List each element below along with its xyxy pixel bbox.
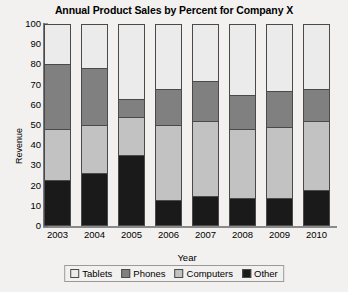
- chart-title: Annual Product Sales by Percent for Comp…: [0, 4, 348, 16]
- y-tick: 40: [30, 140, 44, 150]
- bar-segment-computers[interactable]: [192, 121, 219, 196]
- y-tick: 30: [30, 161, 44, 171]
- y-tick-label: 0: [36, 221, 44, 231]
- bar-segment-computers[interactable]: [229, 129, 256, 198]
- y-tick: 20: [30, 181, 44, 191]
- y-axis-label: Revenue: [14, 128, 24, 164]
- y-tick-label: 60: [30, 100, 44, 110]
- bar-column[interactable]: [303, 24, 330, 226]
- x-tick-label: 2008: [232, 229, 253, 240]
- y-tick-label: 50: [30, 120, 44, 130]
- legend-label: Other: [254, 268, 278, 279]
- x-axis-label: Year: [44, 252, 330, 263]
- legend-item[interactable]: Other: [242, 268, 278, 279]
- x-tick-label: 2004: [84, 229, 105, 240]
- bar-segment-tablets[interactable]: [229, 24, 256, 95]
- bar-segment-computers[interactable]: [118, 117, 145, 155]
- bar-column[interactable]: [155, 24, 182, 226]
- y-tick-label: 70: [30, 80, 44, 90]
- legend-item[interactable]: Phones: [121, 268, 165, 279]
- legend-swatch: [242, 269, 251, 278]
- y-tick-label: 80: [30, 60, 44, 70]
- bar-segment-phones[interactable]: [192, 81, 219, 121]
- y-tick-label: 90: [30, 39, 44, 49]
- x-tick-label: 2003: [47, 229, 68, 240]
- bar-segment-tablets[interactable]: [81, 24, 108, 68]
- bar-segment-other[interactable]: [81, 173, 108, 226]
- bar-segment-computers[interactable]: [155, 125, 182, 200]
- bar-segment-phones[interactable]: [81, 68, 108, 125]
- bar-segment-tablets[interactable]: [44, 24, 71, 64]
- bar-segment-tablets[interactable]: [303, 24, 330, 89]
- legend-item[interactable]: Computers: [175, 268, 233, 279]
- bar-segment-other[interactable]: [192, 196, 219, 226]
- chart-legend: TabletsPhonesComputersOther: [64, 265, 284, 282]
- plot-area: 0102030405060708090100: [44, 24, 330, 226]
- bar-segment-phones[interactable]: [118, 99, 145, 117]
- x-tick-label: 2010: [306, 229, 327, 240]
- bar-segment-other[interactable]: [229, 198, 256, 226]
- y-tick: 80: [30, 60, 44, 70]
- bar-segment-other[interactable]: [303, 190, 330, 226]
- y-tick: 10: [30, 201, 44, 211]
- legend-swatch: [121, 269, 130, 278]
- bar-segment-tablets[interactable]: [192, 24, 219, 81]
- bar-segment-tablets[interactable]: [155, 24, 182, 89]
- y-tick: 60: [30, 100, 44, 110]
- bar-segment-other[interactable]: [44, 180, 71, 226]
- bar-segment-tablets[interactable]: [266, 24, 293, 91]
- legend-label: Tablets: [82, 268, 112, 279]
- x-tick-label: 2005: [121, 229, 142, 240]
- bar-segment-tablets[interactable]: [118, 24, 145, 99]
- x-tick-label: 2006: [158, 229, 179, 240]
- bar-group: [44, 24, 330, 226]
- bar-column[interactable]: [81, 24, 108, 226]
- y-tick-label: 100: [25, 19, 44, 29]
- bar-segment-phones[interactable]: [266, 91, 293, 127]
- bar-column[interactable]: [192, 24, 219, 226]
- bar-segment-computers[interactable]: [303, 121, 330, 190]
- y-tick: 50: [30, 120, 44, 130]
- x-tick-label: 2009: [269, 229, 290, 240]
- legend-swatch: [70, 269, 79, 278]
- bar-segment-other[interactable]: [266, 198, 293, 226]
- legend-item[interactable]: Tablets: [70, 268, 112, 279]
- y-tick-label: 30: [30, 161, 44, 171]
- bar-segment-other[interactable]: [155, 200, 182, 226]
- bar-column[interactable]: [266, 24, 293, 226]
- bar-segment-phones[interactable]: [44, 64, 71, 129]
- bar-segment-computers[interactable]: [44, 129, 71, 180]
- x-axis-line: [43, 226, 337, 228]
- bar-segment-computers[interactable]: [81, 125, 108, 173]
- y-tick: 100: [25, 19, 44, 29]
- bar-column[interactable]: [118, 24, 145, 226]
- bar-column[interactable]: [229, 24, 256, 226]
- bar-segment-phones[interactable]: [303, 89, 330, 121]
- y-tick-label: 20: [30, 181, 44, 191]
- y-tick: 0: [36, 221, 44, 231]
- legend-swatch: [175, 269, 184, 278]
- x-tick-label: 2007: [195, 229, 216, 240]
- chart-container: Annual Product Sales by Percent for Comp…: [0, 0, 348, 292]
- bar-segment-computers[interactable]: [266, 127, 293, 198]
- legend-label: Computers: [187, 268, 233, 279]
- y-tick-label: 10: [30, 201, 44, 211]
- bar-column[interactable]: [44, 24, 71, 226]
- bar-segment-other[interactable]: [118, 155, 145, 226]
- legend-label: Phones: [133, 268, 165, 279]
- y-tick: 70: [30, 80, 44, 90]
- bar-segment-phones[interactable]: [155, 89, 182, 125]
- y-tick-label: 40: [30, 140, 44, 150]
- y-tick: 90: [30, 39, 44, 49]
- bar-segment-phones[interactable]: [229, 95, 256, 129]
